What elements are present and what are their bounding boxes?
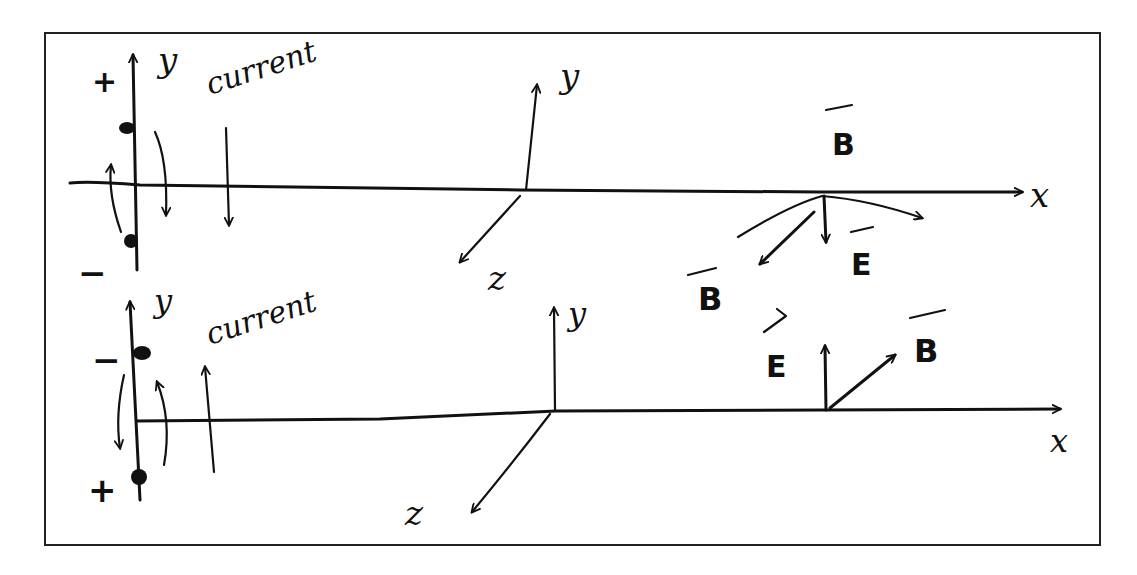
bottom-b-label-arrow-bar	[910, 310, 945, 318]
bottom-origin-z-label: z	[404, 493, 424, 533]
top-origin-y-axis	[526, 85, 537, 190]
top-x-axis	[70, 182, 1022, 192]
bottom-origin-z-axis	[472, 414, 550, 512]
top-charge-positive-dot	[119, 122, 135, 134]
top-e-vector-label: E	[851, 247, 872, 282]
bottom-oscillation-up-arrow	[157, 382, 167, 465]
top-b-field-circle-arc	[738, 196, 922, 237]
bottom-e-label-arrow-mark	[764, 309, 786, 332]
bottom-dipole-y-label: y	[152, 282, 173, 320]
bottom-charge-minus-label: −	[92, 340, 121, 380]
bottom-origin-y-axis	[554, 308, 555, 410]
bottom-e-vector-label: E	[766, 349, 787, 384]
bottom-x-axis-label: x	[1050, 422, 1068, 460]
top-origin-z-label: z	[487, 258, 507, 298]
bottom-oscillation-down-arrow	[118, 375, 124, 448]
bottom-b-vector-label: B	[914, 332, 938, 370]
top-charge-negative-dot	[124, 234, 138, 248]
bottom-panel: y − + current x y z E B	[88, 282, 1068, 533]
top-origin-y-label: y	[558, 56, 580, 96]
bottom-charge-negative-dot	[133, 346, 151, 360]
top-oscillation-up-arrow	[110, 165, 121, 232]
top-b-label-left-arrow-bar	[688, 268, 716, 275]
diagram-frame	[45, 33, 1100, 545]
bottom-charge-plus-label: +	[88, 470, 117, 510]
top-current-arrow	[226, 128, 229, 225]
top-origin-z-axis	[460, 196, 520, 262]
top-charge-minus-label: −	[78, 253, 107, 293]
top-b-vector-label-left: B	[698, 280, 722, 318]
top-oscillation-down-arrow	[155, 132, 166, 215]
top-e-vector-arrow	[824, 196, 826, 242]
top-e-label-arrow-bar	[851, 227, 873, 232]
top-charge-plus-label: +	[92, 64, 117, 99]
bottom-e-vector-arrow	[825, 346, 826, 410]
bottom-b-vector-arrow	[830, 355, 895, 408]
bottom-charge-positive-dot	[131, 469, 147, 485]
top-b-label-top-arrow-bar	[826, 105, 852, 110]
top-x-axis-label: x	[1030, 175, 1049, 215]
top-b-vector-label-top: B	[832, 127, 855, 162]
bottom-origin-y-label: y	[566, 295, 587, 333]
top-current-label: current	[201, 33, 321, 102]
dipole-radiation-diagram: y + − current x y z B E B y	[0, 0, 1137, 575]
bottom-current-label: current	[201, 283, 321, 352]
top-panel: y + − current x y z B E B	[70, 33, 1049, 318]
bottom-x-axis	[137, 409, 1060, 421]
top-dipole-y-label: y	[156, 40, 178, 80]
